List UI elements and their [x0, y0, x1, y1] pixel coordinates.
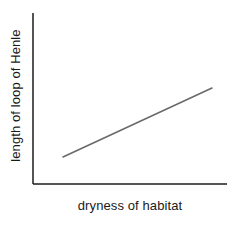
y-axis-label-container: length of loop of Henle: [0, 0, 30, 190]
x-axis-label-container: dryness of habitat: [33, 196, 227, 214]
x-axis-label: dryness of habitat: [78, 199, 182, 212]
y-axis-label: length of loop of Henle: [9, 29, 22, 161]
chart-figure: length of loop of Henle dryness of habit…: [0, 0, 238, 226]
chart-background: [0, 0, 238, 226]
plot-area: [0, 0, 238, 226]
